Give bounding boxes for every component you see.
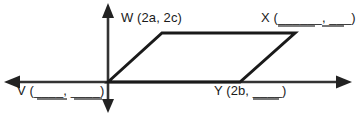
vertex-label-w: W (2a, 2c)	[121, 11, 182, 25]
vertex-label-v: V (____, ____)	[17, 84, 104, 98]
y-axis-top-arrow-icon	[102, 3, 114, 18]
y-axis-bottom-arrow-icon	[102, 99, 114, 113]
vertex-label-x: X (______, ___)	[261, 11, 356, 25]
geometry-diagram: W (2a, 2c) X (______, ___) V (____, ____…	[0, 0, 362, 117]
x-axis-right-arrow-icon	[336, 76, 352, 89]
vertex-label-y: Y (2b, ____)	[214, 84, 287, 98]
parallelogram-shape	[108, 33, 295, 82]
